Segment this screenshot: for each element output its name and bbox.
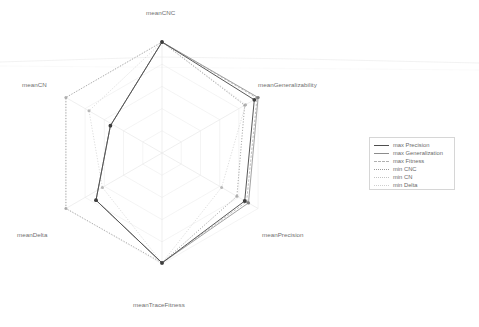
chart-legend: max Precision max Generalization max Fit… [369, 137, 455, 190]
legend-item-min-cnc[interactable]: min CNC [374, 165, 450, 173]
legend-label-max-precision: max Precision [393, 141, 429, 149]
legend-label-min-cn: min CN [393, 173, 412, 181]
series-min-delta [88, 41, 248, 265]
axis-label-meancn: meanCN [22, 81, 47, 88]
legend-label-max-fitness: max Fitness [393, 157, 424, 165]
series-max-generalization [96, 42, 260, 263]
legend-item-min-delta[interactable]: min Delta [374, 181, 450, 189]
series-max-fitness [95, 42, 259, 263]
radar-spokes [66, 42, 258, 264]
legend-swatch-max-precision [374, 145, 389, 146]
legend-swatch-min-delta [374, 185, 389, 186]
legend-label-max-generalization: max Generalization [393, 149, 443, 157]
legend-item-min-cn[interactable]: min CN [374, 173, 450, 181]
legend-item-max-precision[interactable]: max Precision [374, 141, 450, 149]
axis-label-meanprecision: meanPrecision [262, 231, 304, 238]
axis-label-meancnc: meanCNC [146, 9, 175, 16]
scan-artifact-line [0, 57, 479, 70]
legend-label-min-cnc: min CNC [393, 165, 417, 173]
legend-label-min-delta: min Delta [393, 181, 417, 189]
axis-label-meantracefitness: meanTraceFitness [133, 301, 185, 308]
legend-swatch-min-cn [374, 177, 389, 178]
legend-swatch-max-generalization [374, 153, 389, 154]
legend-item-max-generalization[interactable]: max Generalization [374, 149, 450, 157]
legend-swatch-max-fitness [374, 161, 389, 162]
axis-label-meandelta: meanDelta [17, 231, 47, 238]
axis-label-meangeneralizability: meanGeneralizability [258, 81, 317, 88]
legend-swatch-min-cnc [374, 169, 389, 170]
legend-item-max-fitness[interactable]: max Fitness [374, 157, 450, 165]
